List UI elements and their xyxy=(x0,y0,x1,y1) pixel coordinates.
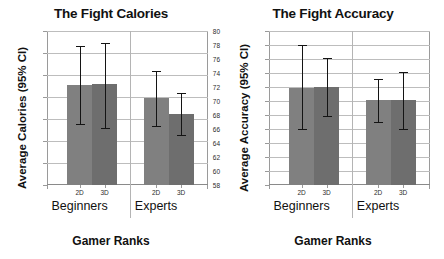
gridline xyxy=(269,73,430,74)
y-axis-tick-mark xyxy=(265,115,269,116)
y-axis-tick-label: 78 xyxy=(190,42,220,49)
figure: The Fight Calories Average Calories (95%… xyxy=(0,0,444,259)
x-axis-sub-label: 3D xyxy=(322,189,330,196)
y-axis-tick-label: 60 xyxy=(190,168,220,175)
chart-panel-accuracy: The Fight Accuracy Average Accuracy (95%… xyxy=(222,0,444,259)
y-axis-tick-label: 62 xyxy=(190,154,220,161)
plot-area-calories xyxy=(47,31,208,185)
y-axis-label-accuracy: Average Accuracy (95% CI) xyxy=(238,33,250,203)
x-axis-sub-label: 2D xyxy=(374,189,382,196)
x-axis-tick-mark xyxy=(327,185,328,188)
x-axis-sub-label: 2D xyxy=(152,189,160,196)
y-axis-tick-label: 66 xyxy=(190,126,220,133)
y-axis-tick-label: 64 xyxy=(190,140,220,147)
error-bar-line xyxy=(156,71,157,126)
x-axis-group-label-experts: Experts xyxy=(357,199,399,213)
error-bar-cap-lower xyxy=(152,126,161,127)
error-bar-cap-lower xyxy=(323,116,332,117)
x-axis-end-tick xyxy=(429,185,430,189)
y-axis-tick-mark xyxy=(43,141,47,142)
chart-title-accuracy: The Fight Accuracy xyxy=(222,6,444,21)
y-axis-tick-mark xyxy=(265,59,269,60)
error-bar-line xyxy=(302,45,303,129)
y-axis-tick-label: 74 xyxy=(190,70,220,77)
x-axis-label-calories: Gamer Ranks xyxy=(0,234,222,248)
error-bar-cap-upper xyxy=(177,93,186,94)
error-bar-line xyxy=(181,93,182,134)
error-bar-cap-lower xyxy=(101,128,110,129)
plot-right-spine xyxy=(207,31,208,185)
y-axis-tick-mark xyxy=(43,75,47,76)
y-axis-tick-mark xyxy=(265,101,269,102)
y-axis-tick-mark xyxy=(43,53,47,54)
error-bar-line xyxy=(378,79,379,122)
y-axis-tick-mark xyxy=(43,163,47,164)
x-axis-tick-mark xyxy=(181,185,182,188)
y-axis-tick-label: 58 xyxy=(190,182,220,189)
plot-left-spine xyxy=(269,31,270,185)
y-axis-tick-mark xyxy=(265,87,269,88)
x-axis-tick-mark xyxy=(156,185,157,188)
y-axis-tick-label: 68 xyxy=(190,112,220,119)
error-bar-cap-lower xyxy=(298,129,307,130)
error-bar-cap-lower xyxy=(76,124,85,125)
error-bar-line xyxy=(80,46,81,124)
y-axis-tick-mark xyxy=(265,157,269,158)
plot-right-spine xyxy=(429,31,430,185)
x-axis-tick-mark xyxy=(302,185,303,188)
group-separator xyxy=(130,31,131,218)
x-axis-sub-label: 3D xyxy=(177,189,185,196)
y-axis-tick-mark xyxy=(265,129,269,130)
group-separator xyxy=(352,31,353,218)
error-bar-cap-upper xyxy=(152,71,161,72)
error-bar-line xyxy=(403,72,404,129)
chart-panel-calories: The Fight Calories Average Calories (95%… xyxy=(0,0,222,259)
error-bar-cap-upper xyxy=(76,46,85,47)
x-axis-label-accuracy: Gamer Ranks xyxy=(222,234,444,248)
y-axis-tick-label: 72 xyxy=(190,84,220,91)
error-bar-line xyxy=(327,58,328,115)
x-axis-group-label-experts: Experts xyxy=(135,199,177,213)
error-bar-cap-lower xyxy=(177,135,186,136)
error-bar-cap-upper xyxy=(374,79,383,80)
x-axis-tick-mark xyxy=(105,185,106,188)
x-axis-end-tick xyxy=(269,185,270,189)
gridline xyxy=(269,31,430,32)
error-bar-cap-upper xyxy=(399,72,408,73)
y-axis-tick-mark xyxy=(43,97,47,98)
gridline xyxy=(269,45,430,46)
gridline xyxy=(269,59,430,60)
x-axis-group-label-beginners: Beginners xyxy=(273,199,329,213)
y-axis-tick-label: 80 xyxy=(190,28,220,35)
plot-area-accuracy xyxy=(269,31,430,185)
error-bar-cap-lower xyxy=(374,122,383,123)
y-axis-tick-mark xyxy=(265,45,269,46)
y-axis-tick-mark xyxy=(265,31,269,32)
x-axis-sub-label: 2D xyxy=(297,189,305,196)
error-bar-cap-upper xyxy=(323,58,332,59)
y-axis-tick-mark xyxy=(265,171,269,172)
gridline xyxy=(47,75,208,76)
x-axis-sub-label: 3D xyxy=(100,189,108,196)
y-axis-tick-label: 76 xyxy=(190,56,220,63)
error-bar-line xyxy=(105,43,106,128)
gridline xyxy=(47,31,208,32)
y-axis-tick-label: 70 xyxy=(190,98,220,105)
x-axis-sub-label: 3D xyxy=(399,189,407,196)
error-bar-cap-lower xyxy=(399,129,408,130)
y-axis-tick-mark xyxy=(43,31,47,32)
error-bar-cap-upper xyxy=(298,45,307,46)
x-axis-group-label-beginners: Beginners xyxy=(51,199,107,213)
x-axis-end-tick xyxy=(47,185,48,189)
x-axis-tick-mark xyxy=(378,185,379,188)
y-axis-label-calories: Average Calories (95% CI) xyxy=(16,33,28,203)
y-axis-tick-mark xyxy=(265,73,269,74)
x-axis-sub-label: 2D xyxy=(75,189,83,196)
y-axis-tick-mark xyxy=(43,119,47,120)
chart-title-calories: The Fight Calories xyxy=(0,6,222,21)
error-bar-cap-upper xyxy=(101,43,110,44)
gridline xyxy=(47,53,208,54)
plot-left-spine xyxy=(47,31,48,185)
x-axis-tick-mark xyxy=(403,185,404,188)
y-axis-tick-mark xyxy=(265,143,269,144)
